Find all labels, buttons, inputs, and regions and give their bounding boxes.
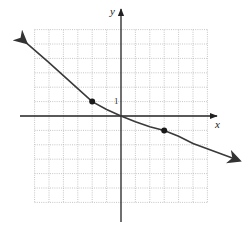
x-axis-label: x bbox=[214, 118, 220, 130]
marked-point bbox=[161, 127, 167, 133]
y-axis-label: y bbox=[109, 5, 115, 17]
marked-point bbox=[89, 99, 95, 105]
graph: x y 1 bbox=[0, 0, 252, 236]
y-unit-tick-label: 1 bbox=[114, 96, 119, 106]
